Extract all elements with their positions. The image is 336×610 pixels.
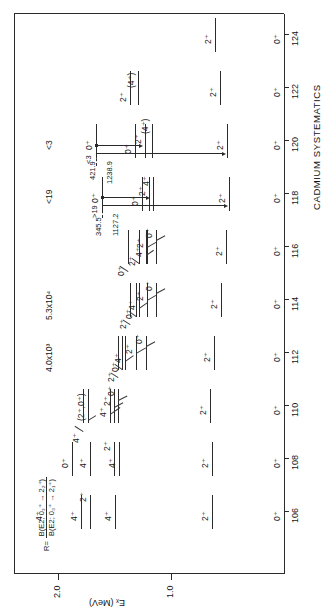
transition-arrowhead-118-short xyxy=(146,196,150,200)
level-112-1 xyxy=(214,336,215,370)
ytick-1p0 xyxy=(171,573,172,580)
cadmium-systematics-figure: 2.0 1.0 Eₓ (MeV) 106 108 110 112 114 116… xyxy=(0,0,336,610)
xtick-label-116: 116 xyxy=(291,244,300,258)
connector-114-b xyxy=(147,295,156,301)
level-122-3 xyxy=(130,71,131,105)
level-label-122-3: 2⁺ xyxy=(119,92,128,102)
xtick-label-108: 108 xyxy=(291,455,300,470)
level-110-2 xyxy=(118,389,119,423)
level-116-6 xyxy=(128,230,129,264)
level-108-1 xyxy=(212,442,213,476)
level-110-6 xyxy=(83,389,84,423)
level-124-0 xyxy=(284,18,285,52)
y-axis-title: Eₓ (MeV) xyxy=(89,598,125,608)
level-label-120-5: 0⁺ xyxy=(85,140,94,150)
transition-energy-118-upper: 1127.2 xyxy=(112,214,120,236)
level-label-124-0: 0⁺ xyxy=(273,34,282,44)
level-label-110-6: 4⁺ xyxy=(72,433,81,443)
level-118-1 xyxy=(229,177,230,211)
level-112-0 xyxy=(284,336,285,370)
level-110-0 xyxy=(284,389,285,423)
frame-right xyxy=(14,13,284,14)
level-116-5 xyxy=(139,230,140,264)
level-108-4 xyxy=(90,442,91,476)
level-114-2 xyxy=(156,283,157,317)
connector-114-c xyxy=(156,288,165,294)
xtick-label-122: 122 xyxy=(291,84,300,99)
level-106-3 xyxy=(90,495,91,529)
level-106-4 xyxy=(81,495,82,529)
ratio-value-112: 4.0x10³ xyxy=(45,344,54,372)
level-label-108-2: 4⁺ xyxy=(108,458,117,468)
transition-energy-118-lower: 345.5 xyxy=(95,217,103,236)
level-112-4 xyxy=(125,336,126,370)
level-116-0 xyxy=(284,230,285,264)
level-114-5 xyxy=(136,283,137,317)
level-label-106-5: 4⁺ xyxy=(35,511,44,521)
rotated-figure-wrapper: 2.0 1.0 Eₓ (MeV) 106 108 110 112 114 116… xyxy=(0,0,336,610)
level-label-118-0: 0⁺ xyxy=(273,193,282,203)
xtick-label-112: 112 xyxy=(291,350,300,364)
ytick-label-1p0: 1.0 xyxy=(166,585,175,598)
connector-110-e xyxy=(75,426,84,432)
level-114-4 xyxy=(139,283,140,317)
level-114-0 xyxy=(284,283,285,317)
level-108-5 xyxy=(72,442,73,476)
level-124-1 xyxy=(215,18,216,52)
level-120-0 xyxy=(284,124,285,158)
connector-110-c xyxy=(118,396,127,401)
level-106-0 xyxy=(284,495,285,529)
level-label-108-5: 0⁺ xyxy=(61,458,70,468)
level-108-2 xyxy=(119,442,120,476)
level-label-112-3: 2⁺ xyxy=(125,344,134,354)
transition-energy-120-upper: 1238.9 xyxy=(106,161,114,184)
level-112-2 xyxy=(146,336,147,370)
level-label-116-0: 0⁺ xyxy=(273,246,282,256)
level-label-114-0: 0⁺ xyxy=(273,299,282,309)
transition-line-118-short xyxy=(102,197,147,198)
level-label-118-1: 2⁺ xyxy=(218,193,227,203)
level-label-108-1: 2⁺ xyxy=(201,458,210,468)
level-116-2 xyxy=(156,230,157,264)
transition-marker-120 xyxy=(95,144,98,147)
level-label-114-3: 2⁺ xyxy=(136,291,145,301)
xtick-label-106: 106 xyxy=(291,508,300,523)
connector-112-a xyxy=(125,355,134,362)
connector-110-d xyxy=(88,415,96,421)
figure-title: CADMIUM SYSTEMATICS xyxy=(312,84,322,210)
transition-dash-118 xyxy=(102,196,103,218)
xtick-label-114: 114 xyxy=(291,297,300,311)
level-label-114-1: 2⁺ xyxy=(210,299,219,309)
level-110-4 xyxy=(110,389,111,423)
level-122-2 xyxy=(138,71,139,105)
ytick-2p0 xyxy=(58,573,59,580)
level-label-106-2: 4⁺ xyxy=(104,511,113,521)
level-label-106-4: 4⁺ xyxy=(70,511,79,521)
level-108-0 xyxy=(284,442,285,476)
level-label-116-1: 2⁺ xyxy=(215,246,224,256)
connector-116-c xyxy=(156,235,165,241)
connector-112-c xyxy=(146,341,155,347)
transition-marker-118 xyxy=(101,196,104,199)
level-112-5 xyxy=(122,336,123,370)
ratio-denominator: B(E2; 0₃⁺ → 2₁⁺) xyxy=(47,477,56,538)
level-label-106-0: 0⁺ xyxy=(273,511,282,521)
transition-branch-120: <3 xyxy=(85,155,93,164)
ratio-value-120: <3 xyxy=(45,140,54,150)
xtick-label-120: 120 xyxy=(291,137,300,152)
xtick-label-118: 118 xyxy=(291,191,300,205)
level-114-1 xyxy=(221,283,222,317)
transition-line-120-long xyxy=(96,153,223,154)
level-label-108-3: 2⁺ xyxy=(103,441,112,451)
level-label-108-0: 0⁺ xyxy=(273,458,282,468)
level-108-3 xyxy=(114,442,115,476)
level-label-110-1: 2⁺ xyxy=(199,405,208,415)
ytick-label-2p0: 2.0 xyxy=(53,585,62,598)
ratio-value-114: 5.3x10⁴ xyxy=(45,291,54,320)
transition-line-120-short xyxy=(96,145,140,146)
level-116-1 xyxy=(226,230,227,264)
level-label-120-0: 0⁺ xyxy=(273,140,282,150)
level-106-5 xyxy=(46,495,47,529)
transition-line-118-long xyxy=(102,205,225,206)
level-label-110-4: 4⁺ xyxy=(99,407,108,417)
